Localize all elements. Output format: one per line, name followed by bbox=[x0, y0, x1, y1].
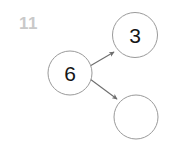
node-circle-empty[interactable] bbox=[114, 95, 158, 139]
node-label-3: 3 bbox=[122, 25, 148, 46]
edge-6-to-3 bbox=[90, 52, 114, 66]
edge-6-to-empty bbox=[90, 79, 117, 99]
diagram-canvas: 11 3 6 bbox=[0, 0, 170, 151]
edge-layer bbox=[90, 52, 117, 99]
node-label-6: 6 bbox=[57, 63, 83, 84]
corner-index-label: 11 bbox=[19, 14, 38, 34]
